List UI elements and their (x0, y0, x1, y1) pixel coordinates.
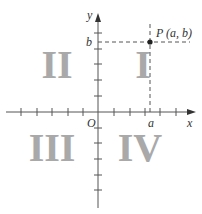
quadrant-IV-label: IV (118, 125, 163, 170)
x-axis-label: x (186, 116, 193, 130)
point-label: P (a, b) (155, 26, 192, 40)
quadrant-I-label: I (135, 42, 151, 87)
point-P (147, 39, 152, 44)
quadrant-II-label: II (41, 42, 72, 87)
x-axis (6, 108, 196, 116)
y-axis-label: y (86, 8, 93, 22)
x-axis-arrow-icon (187, 109, 196, 115)
quadrant-III-label: III (29, 125, 76, 170)
b-label: b (86, 35, 92, 49)
y-axis-arrow-icon (95, 13, 101, 22)
origin-label: O (87, 116, 96, 130)
a-label: a (148, 116, 154, 130)
coordinate-plane: II I III IV (0, 0, 202, 214)
